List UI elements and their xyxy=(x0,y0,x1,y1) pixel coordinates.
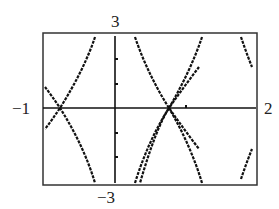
ymax-label: 3 xyxy=(111,13,120,30)
ymin-label: −3 xyxy=(97,189,115,206)
xmin-label: −1 xyxy=(12,100,30,117)
xmax-label: 2 xyxy=(264,100,273,117)
viewing-window-frame xyxy=(43,33,257,185)
curve-branches xyxy=(45,37,252,183)
graph-plot xyxy=(0,0,279,209)
